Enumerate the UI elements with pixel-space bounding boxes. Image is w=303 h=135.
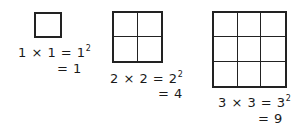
equation-text: 1 × 1 = 1	[18, 45, 86, 60]
equation-3-product: 3 × 3 = 32	[218, 96, 291, 109]
grid-cell	[238, 37, 262, 61]
exponent: 2	[86, 44, 92, 53]
grid-cell	[114, 37, 138, 61]
square-grid-1x1	[34, 12, 62, 38]
grid-cell	[261, 62, 285, 86]
square-grid-2x2	[112, 11, 163, 63]
square-grid-3x3	[212, 11, 287, 88]
grid-cell	[261, 13, 285, 37]
grid-cell	[36, 14, 60, 36]
exponent: 2	[286, 94, 292, 103]
equation-2-result: = 4	[158, 87, 183, 100]
grid-cell	[238, 62, 262, 86]
equation-3-result: = 9	[258, 112, 283, 125]
grid-cell	[238, 13, 262, 37]
grid-cell	[214, 13, 238, 37]
grid-cell	[138, 13, 162, 37]
exponent: 2	[178, 70, 184, 79]
grid-cell	[214, 62, 238, 86]
grid-cell	[138, 37, 162, 61]
equation-1-product: 1 × 1 = 12	[18, 46, 91, 59]
equation-1-result: = 1	[57, 62, 82, 75]
grid-cell	[214, 37, 238, 61]
grid-cell	[261, 37, 285, 61]
grid-cell	[114, 13, 138, 37]
equation-2-product: 2 × 2 = 22	[110, 72, 183, 85]
equation-text: 3 × 3 = 3	[218, 95, 286, 110]
equation-text: 2 × 2 = 2	[110, 71, 178, 86]
